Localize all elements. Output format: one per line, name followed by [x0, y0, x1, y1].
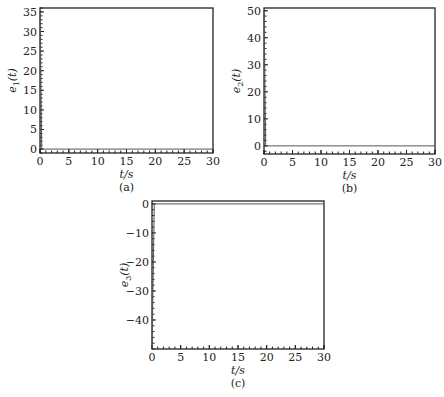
x-tick-label: 25: [288, 351, 302, 364]
chart-panel-c: 0510152025300−10−20−30−40t/se3(t)(c): [118, 198, 331, 390]
x-tick-label: 5: [65, 155, 72, 168]
y-tick-label: 20: [247, 86, 261, 99]
y-axis-label: e3(t): [118, 263, 133, 288]
y-tick-label: 25: [23, 45, 37, 58]
y-tick-label: 10: [247, 113, 261, 126]
x-tick-label: 30: [317, 351, 331, 364]
x-axis-label: t/s: [343, 169, 357, 182]
x-tick-label: 25: [400, 156, 414, 169]
x-tick-label: 5: [177, 351, 184, 364]
x-tick-label: 15: [120, 155, 134, 168]
x-tick-label: 20: [260, 351, 274, 364]
y-tick-label: 15: [23, 84, 37, 97]
y-tick-label: −10: [126, 227, 149, 240]
x-tick-label: 20: [371, 156, 385, 169]
y-tick-label: 30: [247, 59, 261, 72]
y-tick-label: −40: [126, 314, 149, 327]
x-axis-label: t/s: [120, 168, 134, 181]
plot-frame: [40, 8, 213, 153]
y-tick-label: 50: [247, 5, 261, 18]
y-tick-label: 10: [23, 104, 37, 117]
y-tick-label: 35: [23, 6, 37, 19]
x-tick-label: 25: [177, 155, 191, 168]
x-tick-label: 30: [206, 155, 220, 168]
x-tick-label: 0: [37, 155, 44, 168]
y-axis-label: e2(t): [230, 69, 245, 94]
y-tick-label: 40: [247, 32, 261, 45]
x-tick-label: 10: [314, 156, 328, 169]
figure-canvas: 05101520253005101520253035t/se1(t)(a)051…: [0, 0, 444, 397]
plot-frame: [152, 201, 324, 349]
series-line: [264, 11, 435, 146]
series-line: [152, 204, 324, 349]
x-tick-label: 10: [91, 155, 105, 168]
plot-frame: [264, 8, 435, 154]
chart-panel-b: 05101520253001020304050t/se2(t)(b): [230, 5, 442, 195]
x-tick-label: 10: [202, 351, 216, 364]
x-tick-label: 5: [289, 156, 296, 169]
x-axis-label: t/s: [231, 364, 245, 377]
y-tick-label: 0: [30, 143, 37, 156]
x-tick-label: 15: [343, 156, 357, 169]
x-tick-label: 0: [149, 351, 156, 364]
x-tick-label: 20: [148, 155, 162, 168]
y-tick-label: 30: [23, 26, 37, 39]
y-tick-label: 20: [23, 65, 37, 78]
y-tick-label: 0: [254, 140, 261, 153]
y-tick-label: 5: [30, 123, 37, 136]
chart-panel-a: 05101520253005101520253035t/se1(t)(a): [6, 6, 220, 194]
x-tick-label: 30: [428, 156, 442, 169]
panel-caption: (a): [119, 181, 134, 194]
series-line: [40, 12, 213, 149]
panel-caption: (c): [231, 377, 246, 390]
panel-caption: (b): [342, 182, 358, 195]
y-tick-label: 0: [142, 198, 149, 211]
x-tick-label: 0: [261, 156, 268, 169]
x-tick-label: 15: [231, 351, 245, 364]
y-axis-label: e1(t): [6, 68, 21, 93]
